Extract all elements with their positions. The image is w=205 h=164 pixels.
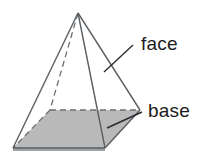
label-base: base <box>148 100 190 121</box>
pyramid-diagram-svg: face base <box>0 0 205 164</box>
label-face: face <box>141 33 178 54</box>
pyramid-figure: face base <box>0 0 205 164</box>
face-leader-line <box>104 45 133 72</box>
pyramid-base-face <box>13 110 140 148</box>
